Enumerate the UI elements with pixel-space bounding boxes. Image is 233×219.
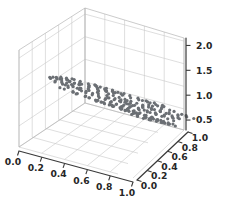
scatter-point [99,85,102,88]
scatter-point [51,76,54,79]
y-tick-label-2: 0.4 [161,161,177,172]
x-tick-3 [86,170,88,175]
scatter-point [159,110,162,113]
z-tick-label-2: 1.5 [196,65,212,76]
z-tick-label-0: 0.5 [196,114,212,125]
x-tick-label-1: 0.2 [28,162,44,173]
scatter-point [67,86,70,89]
x-tick-0 [18,151,20,156]
scatter-point [147,103,150,106]
x-tick-label-3: 0.6 [73,175,89,186]
y-tick-label-5: 1.0 [192,132,208,143]
scatter-point [76,87,79,90]
scatter-point [72,91,75,94]
scatter-point [167,121,170,124]
scatter-point [111,105,114,108]
scatter-point [160,121,163,124]
y-tick-label-3: 0.6 [171,151,187,162]
x-tick-5 [132,182,134,187]
z-tick-label-3: 2.0 [196,40,212,51]
scatter-point [122,92,125,95]
scatter-point [61,83,64,86]
scatter-point [105,87,108,90]
scatter-point [72,85,75,88]
scatter-point [63,87,66,90]
scatter-point [115,103,118,106]
scatter-point [73,82,76,85]
scatter-point [96,99,99,102]
scatter-point [84,95,87,98]
scatter-point [98,96,101,99]
scatter-point [96,88,99,91]
scatter-point [133,104,136,107]
scatter-point [153,108,156,111]
x-tick-label-5: 1.0 [119,187,135,198]
scatter3d-axes: 0.00.20.40.60.81.00.00.20.40.60.81.00.51… [0,0,233,219]
x-tick-label-2: 0.4 [50,168,66,179]
scatter-point [87,86,90,89]
scatter-point [126,99,129,102]
scatter-point [155,120,158,123]
scatter-point [138,108,141,111]
scatter-point [107,96,110,99]
scatter-point [151,105,154,108]
scatter-point [114,91,117,94]
scatter-point [163,114,166,117]
matplotlib-figure: 0.00.20.40.60.81.00.00.20.40.60.81.00.51… [0,0,233,219]
scatter-point [180,113,183,116]
scatter-point [99,100,102,103]
scatter-point [192,117,195,120]
scatter-point [87,89,90,92]
scatter-point [105,90,108,93]
scatter-point [168,112,171,115]
scatter-point [108,103,111,106]
y-tick-label-4: 0.8 [182,142,198,153]
scatter-point [80,83,83,86]
scatter-point [80,89,83,92]
scatter-point [128,106,131,109]
scatter-point [148,118,151,121]
scatter-point [60,77,63,80]
scatter-point [168,108,171,111]
scatter-point [122,104,125,107]
x-tick-label-4: 0.8 [96,181,112,192]
y-tick-label-1: 0.2 [151,170,167,181]
scatter-point [123,109,126,112]
scatter-point [129,96,132,99]
y-tick-label-0: 0.0 [141,180,157,191]
scatter-point [127,110,130,113]
scatter-point [146,110,149,113]
scatter-point [152,117,155,120]
x-tick-2 [63,163,65,168]
scatter-point [176,114,179,117]
z-tick-label-1: 1.0 [196,90,212,101]
scatter-point [149,111,152,114]
scatter-point [136,115,139,118]
scatter-point [84,91,87,94]
scatter-point [116,91,119,94]
scatter-point [172,110,175,113]
scatter-point [53,80,56,83]
scatter-point [130,113,133,116]
scatter-point [166,117,169,120]
scatter-point [137,98,140,101]
scatter-point [68,80,71,83]
scatter-point [142,117,145,120]
scatter-point [155,112,158,115]
scatter-point [75,92,78,95]
scatter-point [87,96,90,99]
scatter-point [111,89,114,92]
x-tick-4 [109,176,111,181]
scatter-point [113,97,116,100]
scatter-point [103,102,106,105]
scatter-point [55,76,58,79]
scatter-point [119,98,122,101]
scatter-point [156,104,159,107]
scatter-point [120,108,123,111]
scatter-point [163,122,166,125]
scatter-point [93,83,96,86]
scatter-point [141,106,144,109]
scatter-point [171,122,174,125]
scatter-point [127,103,130,106]
scatter-point [58,86,61,89]
